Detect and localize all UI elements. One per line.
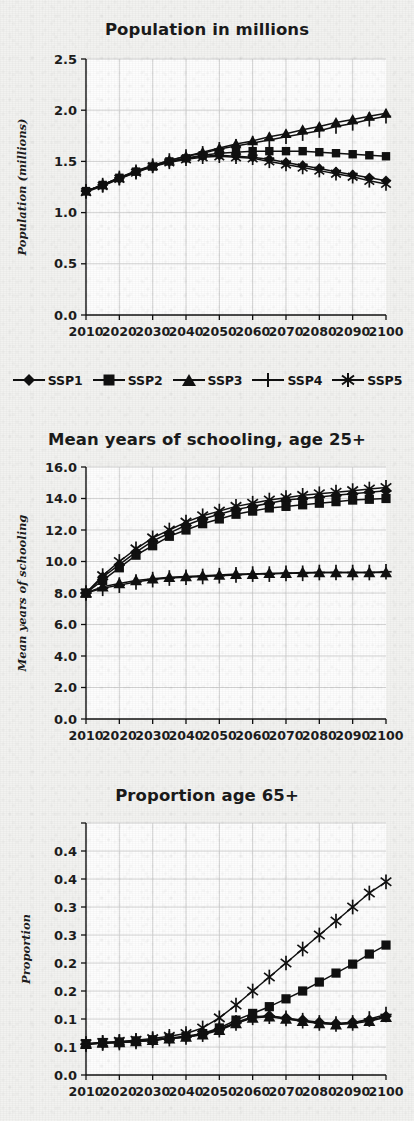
x-tick-label: 2010 — [68, 324, 103, 339]
chart-panel-schooling: Mean years of schooling, age 25+ 0.02.04… — [0, 412, 414, 770]
series-legend: SSP1 SSP2 SSP3 — [0, 372, 414, 388]
y-tick-label: 6.0 — [54, 617, 77, 632]
y-tick-label: 0.0 — [54, 1067, 77, 1082]
y-tick-label: 2.0 — [54, 680, 77, 695]
x-tick-label: 2100 — [368, 324, 403, 339]
legend-entry-ssp1[interactable]: SSP1 — [12, 372, 83, 388]
x-tick-label: 2040 — [168, 324, 203, 339]
y-tick-label: 8.0 — [54, 585, 77, 600]
square-marker-icon — [92, 372, 126, 388]
x-tick-label: 2060 — [235, 728, 270, 743]
x-tick-label: 2080 — [302, 1084, 337, 1099]
x-tick-label: 2060 — [235, 324, 270, 339]
x-tick-label: 2090 — [335, 728, 370, 743]
legend-label-ssp5: SSP5 — [367, 373, 402, 388]
square-marker-icon — [331, 968, 340, 977]
square-marker-icon — [348, 150, 356, 158]
y-tick-label: 16.0 — [45, 459, 77, 474]
square-marker-icon — [315, 977, 324, 986]
plus-marker-icon — [251, 372, 285, 388]
y-tick-label: 0.5 — [54, 256, 77, 271]
y-tick-label: 0.1 — [54, 1039, 77, 1054]
legend-entry-ssp2[interactable]: SSP2 — [92, 372, 163, 388]
triangle-marker-icon — [172, 372, 206, 388]
legend-label-ssp3: SSP3 — [208, 373, 243, 388]
square-marker-icon — [265, 146, 273, 154]
chart-title-schooling: Mean years of schooling, age 25+ — [0, 412, 414, 449]
chart-panel-aging: Proportion age 65+ 0.00.10.10.20.20.30.3… — [0, 770, 414, 1121]
y-tick-label: 0.3 — [54, 899, 77, 914]
square-marker-icon — [315, 147, 323, 155]
y-tick-label: 2.0 — [54, 102, 77, 117]
legend-label-ssp2: SSP2 — [128, 373, 163, 388]
y-tick-label: 0.3 — [54, 927, 77, 942]
x-tick-label: 2030 — [135, 728, 170, 743]
y-tick-label: 0.1 — [54, 1011, 77, 1026]
square-marker-icon — [282, 146, 290, 154]
square-marker-icon — [381, 940, 390, 949]
square-marker-icon — [348, 959, 357, 968]
chart-title-aging: Proportion age 65+ — [0, 770, 414, 805]
square-marker-icon — [298, 986, 307, 995]
y-tick-label: 14.0 — [45, 491, 77, 506]
aging-line-chart: 0.00.10.10.20.20.30.30.40.42010202020302… — [0, 813, 414, 1121]
y-tick-label: 4.0 — [54, 648, 77, 663]
schooling-line-chart: 0.02.04.06.08.010.012.014.016.0201020202… — [0, 457, 414, 779]
square-marker-icon — [381, 493, 390, 502]
x-tick-label: 2060 — [235, 1084, 270, 1099]
x-tick-label: 2040 — [168, 1084, 203, 1099]
square-marker-icon — [281, 994, 290, 1003]
legend-entry-ssp5[interactable]: SSP5 — [331, 372, 402, 388]
legend-label-ssp4: SSP4 — [287, 373, 322, 388]
y-axis-title: Population (millions) — [15, 118, 29, 256]
y-tick-label: 10.0 — [45, 554, 77, 569]
x-tick-label: 2010 — [68, 728, 103, 743]
square-marker-icon — [365, 151, 373, 159]
plot-area-population: 0.00.51.01.52.02.52010202020302040205020… — [0, 47, 414, 377]
x-tick-label: 2030 — [135, 324, 170, 339]
x-tick-label: 2080 — [302, 728, 337, 743]
legend-entry-ssp3[interactable]: SSP3 — [172, 372, 243, 388]
x-tick-label: 2050 — [202, 728, 237, 743]
y-tick-label: 0.0 — [54, 307, 77, 322]
chart-panel-population: Population in millions 0.00.51.01.52.02.… — [0, 0, 414, 412]
y-tick-label: 0.2 — [54, 955, 77, 970]
x-tick-label: 2090 — [335, 1084, 370, 1099]
y-tick-label: 2.5 — [54, 51, 77, 66]
square-marker-icon — [298, 146, 306, 154]
x-tick-label: 2050 — [202, 1084, 237, 1099]
chart-title-population: Population in millions — [0, 0, 414, 39]
x-tick-label: 2070 — [268, 728, 303, 743]
x-tick-label: 2040 — [168, 728, 203, 743]
x-tick-label: 2030 — [135, 1084, 170, 1099]
y-axis-title: Mean years of schooling — [15, 514, 29, 672]
y-tick-label: 12.0 — [45, 522, 77, 537]
x-tick-label: 2020 — [102, 728, 137, 743]
legend-label-ssp1: SSP1 — [48, 373, 83, 388]
y-tick-label: 1.0 — [54, 205, 77, 220]
square-marker-icon — [382, 152, 390, 160]
x-tick-label: 2070 — [268, 1084, 303, 1099]
y-tick-label: 0.4 — [54, 871, 77, 886]
plot-area-schooling: 0.02.04.06.08.010.012.014.016.0201020202… — [0, 457, 414, 779]
diamond-marker-icon — [12, 372, 46, 388]
plot-area-aging: 0.00.10.10.20.20.30.30.40.42010202020302… — [0, 813, 414, 1121]
x-tick-label: 2020 — [102, 1084, 137, 1099]
x-tick-label: 2100 — [368, 728, 403, 743]
y-tick-label: 1.5 — [54, 154, 77, 169]
population-line-chart: 0.00.51.01.52.02.52010202020302040205020… — [0, 47, 414, 377]
square-marker-icon — [332, 149, 340, 157]
plot-background — [86, 59, 386, 315]
x-tick-label: 2090 — [335, 324, 370, 339]
x-tick-label: 2010 — [68, 1084, 103, 1099]
square-marker-icon — [365, 949, 374, 958]
y-axis-title: Proportion — [19, 914, 33, 985]
y-tick-label: 0.4 — [54, 843, 77, 858]
y-tick-label: 0.2 — [54, 983, 77, 998]
x-tick-label: 2100 — [368, 1084, 403, 1099]
figure-page: Population in millions 0.00.51.01.52.02.… — [0, 0, 414, 1121]
x-tick-label: 2020 — [102, 324, 137, 339]
x-tick-label: 2070 — [268, 324, 303, 339]
legend-entry-ssp4[interactable]: SSP4 — [251, 372, 322, 388]
x-tick-label: 2050 — [202, 324, 237, 339]
